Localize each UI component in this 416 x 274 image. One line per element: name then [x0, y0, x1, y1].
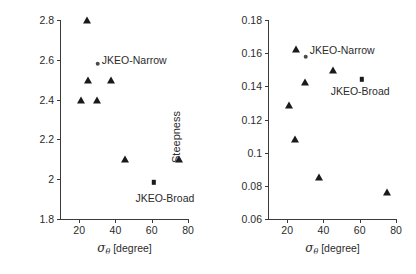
data-point-triangle: [329, 66, 337, 73]
plot-area-qp: 1.822.22.42.62.820406080σθ [degree]JKEO-…: [60, 20, 188, 220]
y-tick: [265, 153, 269, 154]
y-tick: [265, 86, 269, 87]
y-tick-label: 0.14: [242, 81, 262, 92]
annotation-jkeo-broad: JKEO-Broad: [135, 193, 194, 204]
y-tick-label: 2.6: [39, 55, 54, 66]
data-point-triangle: [301, 78, 309, 85]
y-tick-label: 2: [48, 174, 54, 185]
annotation-jkeo-narrow: JKEO-Narrow: [310, 45, 375, 56]
x-tick-label: 40: [110, 225, 122, 236]
x-tick: [323, 219, 324, 223]
y-tick-label: 2.4: [39, 94, 54, 105]
panel-steepness: 0.060.080.10.120.140.160.1820406080σθ [d…: [208, 0, 416, 274]
x-tick: [287, 219, 288, 223]
figure-scatter-pair: 1.822.22.42.62.820406080σθ [degree]JKEO-…: [0, 0, 416, 274]
y-tick-label: 1.8: [39, 214, 54, 225]
y-tick-label: 0.06: [242, 214, 262, 225]
annotation-jkeo-narrow: JKEO-Narrow: [102, 55, 167, 66]
x-tick: [79, 219, 80, 223]
data-point-triangle: [84, 76, 92, 83]
data-point-triangle: [315, 174, 323, 181]
data-point-square: [152, 180, 156, 184]
x-tick: [188, 219, 189, 223]
data-point-triangle: [291, 136, 299, 143]
data-point-triangle: [77, 96, 85, 103]
y-tick-label: 2.2: [39, 134, 54, 145]
y-tick: [57, 20, 61, 21]
x-tick: [115, 219, 116, 223]
y-tick: [57, 179, 61, 180]
x-tick-label: 40: [318, 225, 330, 236]
y-tick-label: 0.1: [247, 147, 262, 158]
y-tick: [265, 120, 269, 121]
y-tick-label: 0.08: [242, 181, 262, 192]
y-tick: [265, 186, 269, 187]
x-axis-title: σθ [degree]: [305, 242, 359, 256]
y-tick-label: 0.16: [242, 48, 262, 59]
x-axis-title: σθ [degree]: [97, 242, 151, 256]
plot-area-steepness: 0.060.080.10.120.140.160.1820406080σθ [d…: [268, 20, 396, 220]
y-tick: [57, 139, 61, 140]
x-tick-label: 60: [354, 225, 366, 236]
data-point-triangle: [285, 101, 293, 108]
x-tick: [360, 219, 361, 223]
data-point-circle: [303, 55, 308, 60]
data-point-triangle: [292, 46, 300, 53]
y-tick-label: 0.12: [242, 114, 262, 125]
data-point-triangle: [83, 17, 91, 24]
x-tick-label: 20: [281, 225, 293, 236]
y-tick-label: 2.8: [39, 15, 54, 26]
x-tick: [396, 219, 397, 223]
data-point-triangle: [121, 156, 129, 163]
x-tick-label: 60: [146, 225, 158, 236]
x-tick-label: 80: [390, 225, 402, 236]
y-tick-label: 0.18: [242, 15, 262, 26]
y-tick: [265, 20, 269, 21]
x-tick: [152, 219, 153, 223]
data-point-triangle: [93, 96, 101, 103]
y-tick: [57, 100, 61, 101]
y-tick: [265, 53, 269, 54]
x-tick-label: 80: [182, 225, 194, 236]
y-tick: [57, 60, 61, 61]
data-point-triangle: [383, 188, 391, 195]
y-axis-title-steepness: Steepness: [171, 111, 182, 163]
annotation-jkeo-broad: JKEO-Broad: [331, 86, 390, 97]
data-point-circle: [95, 61, 100, 66]
data-point-triangle: [107, 76, 115, 83]
data-point-square: [360, 77, 364, 81]
x-tick-label: 20: [73, 225, 85, 236]
y-tick: [265, 219, 269, 220]
y-tick: [57, 219, 61, 220]
